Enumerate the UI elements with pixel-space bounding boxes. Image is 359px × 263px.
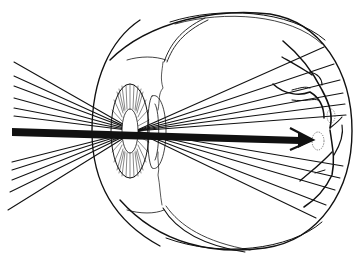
- lens: [148, 95, 167, 168]
- central-ray-arrow: [12, 128, 313, 150]
- eye-diagram: [0, 0, 359, 263]
- iris: [111, 84, 149, 178]
